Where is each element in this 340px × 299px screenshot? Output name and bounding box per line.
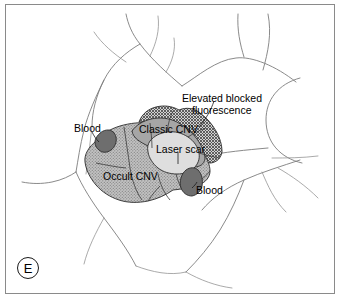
vessel-upper-left-branch-4 bbox=[166, 38, 175, 72]
label-classic-cnv: Classic CNV bbox=[139, 123, 198, 135]
vessel-lower-left-main bbox=[22, 172, 76, 184]
vessel-inferior-branch-4 bbox=[278, 168, 318, 198]
vessel-lower-center bbox=[186, 272, 232, 288]
label-laser-scar: Laser scar bbox=[156, 143, 206, 155]
vessel-upper-left-branch-3 bbox=[150, 16, 159, 56]
figure-panel-e: Elevated blocked fluorescence Classic CN… bbox=[0, 0, 340, 299]
vessel-inferior-branch-3 bbox=[272, 156, 318, 158]
vessel-superior-branch-2 bbox=[263, 14, 270, 70]
fundus-diagram: Elevated blocked fluorescence Classic CN… bbox=[0, 0, 340, 299]
vessel-lower-left-branch-3 bbox=[84, 218, 104, 264]
panel-letter: E bbox=[18, 258, 39, 279]
label-elevated-blocked-fluorescence-line2: fluorescence bbox=[192, 104, 252, 116]
vessel-upper-left-main bbox=[126, 14, 182, 86]
panel-letter-label: E bbox=[24, 261, 33, 276]
label-blood-upper-left: Blood bbox=[74, 122, 101, 134]
optic-disc bbox=[266, 78, 302, 163]
label-occult-cnv: Occult CNV bbox=[103, 170, 158, 182]
label-blood-lower-right: Blood bbox=[196, 184, 223, 196]
vessel-upper-left-branch-1 bbox=[92, 44, 140, 126]
vessel-lower-left-branch-2 bbox=[136, 266, 186, 274]
label-elevated-blocked-fluorescence-line1: Elevated blocked bbox=[182, 92, 262, 104]
vessel-inferior-branch-2 bbox=[262, 172, 286, 212]
vessel-superior-arcade bbox=[182, 58, 296, 86]
vessel-superior-branch-1 bbox=[238, 14, 244, 57]
